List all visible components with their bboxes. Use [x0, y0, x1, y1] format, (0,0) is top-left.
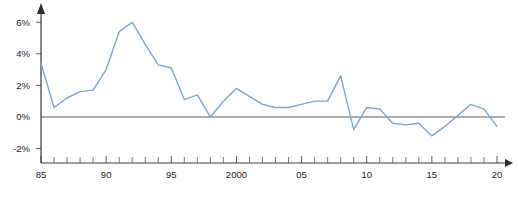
x-tick-label: 2000: [226, 169, 247, 180]
x-tick-label: 05: [296, 169, 307, 180]
x-tick-label: 15: [427, 169, 438, 180]
x-axis-minor-tick-marks: [54, 157, 484, 163]
x-axis-major-tick-marks: [41, 156, 497, 163]
y-axis-tick-labels: 6%4%2%0%-2%: [13, 17, 30, 154]
x-tick-label: 85: [36, 169, 47, 180]
data-series-line: [41, 22, 497, 136]
y-axis-arrow-icon: [37, 3, 45, 14]
y-tick-label: 6%: [16, 17, 30, 28]
x-tick-label: 10: [361, 169, 372, 180]
x-tick-label: 90: [101, 169, 112, 180]
y-tick-label: 2%: [16, 80, 30, 91]
line-chart: 6%4%2%0%-2% 859095200005101520: [0, 0, 518, 197]
chart-container: 6%4%2%0%-2% 859095200005101520: [0, 0, 518, 197]
y-tick-label: -2%: [13, 143, 30, 154]
y-tick-label: 0%: [16, 111, 30, 122]
y-tick-label: 4%: [16, 48, 30, 59]
x-tick-label: 95: [166, 169, 177, 180]
x-tick-label: 20: [492, 169, 503, 180]
x-axis-tick-labels: 859095200005101520: [36, 169, 503, 180]
y-axis-tick-marks: [36, 22, 41, 148]
x-axis-arrow-icon: [505, 159, 513, 167]
